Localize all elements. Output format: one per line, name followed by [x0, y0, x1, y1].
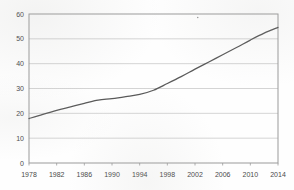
scan-speck-icon [197, 17, 198, 18]
x-tick-label: 1982 [49, 171, 65, 178]
y-tick-label: 10 [16, 135, 24, 142]
x-tick-label: 1994 [132, 171, 148, 178]
chart-container: 0102030405060 19781982198619901994199820… [0, 0, 294, 190]
x-axis-tick-labels: 1978198219861990199419982002200620102014 [21, 171, 286, 178]
y-tick-label: 30 [16, 85, 24, 92]
x-tick-label: 2010 [243, 171, 259, 178]
y-tick-label: 40 [16, 60, 24, 67]
y-tick-label: 60 [16, 11, 24, 18]
x-tick-label: 2014 [270, 171, 286, 178]
x-tick-label: 1990 [104, 171, 120, 178]
x-tick-label: 2006 [215, 171, 231, 178]
x-tick-label: 1998 [160, 171, 176, 178]
scan-artifacts [197, 17, 198, 18]
x-tick-label: 2002 [187, 171, 203, 178]
x-tick-label: 1986 [77, 171, 93, 178]
x-tick-label: 1978 [21, 171, 37, 178]
y-axis-tick-labels: 0102030405060 [16, 11, 24, 167]
y-tick-label: 0 [20, 160, 24, 167]
line-chart: 0102030405060 19781982198619901994199820… [0, 0, 294, 190]
y-tick-label: 20 [16, 110, 24, 117]
y-tick-label: 50 [16, 35, 24, 42]
